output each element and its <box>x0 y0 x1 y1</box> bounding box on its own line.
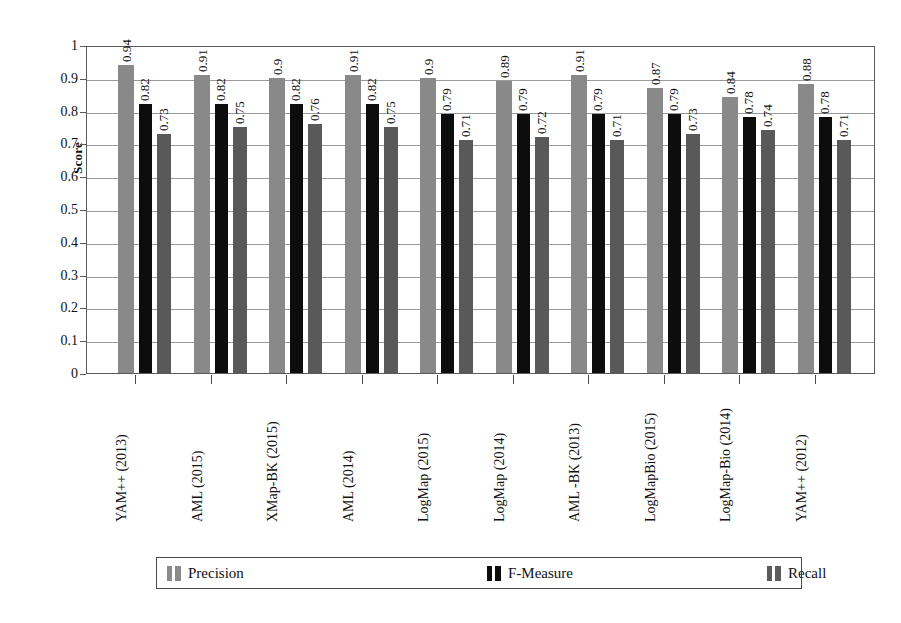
bar-recall <box>535 137 549 373</box>
x-axis-category-label: AML (2015) <box>191 451 205 522</box>
x-axis-category-label: XMap-BK (2015) <box>266 421 280 522</box>
bar-fmeasure <box>517 114 530 373</box>
x-axis-category-label: AML (2014) <box>342 451 356 522</box>
bar-value-label: 0.87 <box>649 62 662 85</box>
bar-group: 0.90.820.76 <box>269 47 345 373</box>
bar-recall <box>157 134 171 373</box>
bar-value-label: 0.91 <box>573 49 586 72</box>
bar-fmeasure <box>668 114 681 373</box>
bar-group: 0.870.790.73 <box>647 47 723 373</box>
bar-value-label: 0.89 <box>498 55 511 78</box>
bar-fmeasure <box>743 117 756 373</box>
legend-swatch-icon <box>767 566 772 581</box>
bar-recall <box>761 130 775 373</box>
bar-value-label: 0.73 <box>157 108 170 131</box>
x-axis-category-label: LogMap (2015) <box>417 433 431 522</box>
y-axis-tick-labels: 10.90.80.70.60.50.40.30.20.10 <box>30 46 80 374</box>
bar-value-label: 0.82 <box>138 78 151 101</box>
legend-swatch-icon <box>487 566 492 581</box>
bar-value-label: 0.79 <box>667 88 680 111</box>
bar-precision <box>269 78 285 373</box>
bar-value-label: 0.75 <box>233 101 246 124</box>
x-axis-category-labels: YAM++ (2013)AML (2015)XMap-BK (2015)AML … <box>86 382 875 522</box>
bar-value-label: 0.71 <box>459 114 472 137</box>
bar-group: 0.90.790.71 <box>420 47 496 373</box>
bar-value-label: 0.71 <box>837 114 850 137</box>
bar-fmeasure <box>366 104 379 373</box>
bar-value-label: 0.9 <box>422 59 435 75</box>
y-axis-tick-label: 1 <box>30 39 78 53</box>
legend-label: Recall <box>787 565 826 582</box>
legend-item-recall: Recall <box>767 558 826 588</box>
bar-value-label: 0.91 <box>347 49 360 72</box>
bar-group: 0.910.790.71 <box>571 47 647 373</box>
legend-label: Precision <box>187 565 244 582</box>
legend-swatch-icon <box>175 566 181 581</box>
bar-group: 0.910.820.75 <box>345 47 421 373</box>
bar-group: 0.940.820.73 <box>118 47 194 373</box>
y-axis-tick-label: 0.9 <box>30 72 78 86</box>
bar-value-label: 0.73 <box>686 108 699 131</box>
bar-fmeasure <box>592 114 605 373</box>
bar-value-label: 0.76 <box>308 98 321 121</box>
bar-recall <box>837 140 851 373</box>
legend-item-precision: Precision <box>167 558 244 588</box>
x-axis-category-label: AML -BK (2013) <box>568 423 582 522</box>
bar-value-label: 0.78 <box>818 91 831 114</box>
bar-value-label: 0.79 <box>591 88 604 111</box>
legend-swatch-icon <box>495 566 501 581</box>
bar-group: 0.910.820.75 <box>194 47 270 373</box>
bar-chart-figure: Score 10.90.80.70.60.50.40.30.20.10 0.94… <box>0 0 901 623</box>
bar-value-label: 0.94 <box>120 39 133 62</box>
bar-group: 0.890.790.72 <box>496 47 572 373</box>
bar-value-label: 0.72 <box>535 111 548 134</box>
bar-precision <box>647 88 663 373</box>
y-axis-tick-label: 0.6 <box>30 170 78 184</box>
bar-value-label: 0.9 <box>271 59 284 75</box>
bar-fmeasure <box>290 104 303 373</box>
y-axis-tick-label: 0.3 <box>30 269 78 283</box>
bar-value-label: 0.74 <box>761 105 774 128</box>
bar-fmeasure <box>139 104 152 373</box>
bar-value-label: 0.79 <box>516 88 529 111</box>
bar-precision <box>194 75 210 373</box>
bar-value-label: 0.82 <box>289 78 302 101</box>
bar-group: 0.840.780.74 <box>722 47 798 373</box>
bar-value-label: 0.75 <box>384 101 397 124</box>
x-axis-category-label: LogMapBio (2015) <box>644 413 658 522</box>
bar-fmeasure <box>441 114 454 373</box>
bar-precision <box>420 78 436 373</box>
bar-precision <box>798 84 814 373</box>
bar-value-label: 0.82 <box>365 78 378 101</box>
bar-recall <box>308 124 322 373</box>
bar-recall <box>233 127 247 373</box>
bar-value-label: 0.79 <box>440 88 453 111</box>
chart-legend: PrecisionF-MeasureRecall <box>156 557 802 589</box>
y-axis-tick-label: 0 <box>30 367 78 381</box>
y-axis-tick-label: 0.1 <box>30 334 78 348</box>
bar-recall <box>610 140 624 373</box>
bar-recall <box>686 134 700 373</box>
bar-fmeasure <box>819 117 832 373</box>
bar-value-label: 0.84 <box>724 72 737 95</box>
y-axis-tick-label: 0.5 <box>30 203 78 217</box>
bar-precision <box>571 75 587 373</box>
bar-value-label: 0.82 <box>214 78 227 101</box>
bar-value-label: 0.88 <box>800 59 813 82</box>
bar-fmeasure <box>215 104 228 373</box>
y-axis-tick-label: 0.2 <box>30 301 78 315</box>
bar-precision <box>722 97 738 373</box>
plot-area: 0.940.820.730.910.820.750.90.820.760.910… <box>86 46 875 374</box>
bar-recall <box>384 127 398 373</box>
bar-recall <box>459 140 473 373</box>
x-axis-category-label: YAM++ (2013) <box>115 434 129 522</box>
bar-precision <box>345 75 361 373</box>
x-axis-category-label: LogMap (2014) <box>493 433 507 522</box>
bar-value-label: 0.71 <box>610 114 623 137</box>
y-axis-tick-label: 0.8 <box>30 105 78 119</box>
legend-swatch-icon <box>775 566 781 581</box>
x-axis-category-label: YAM++ (2012) <box>795 434 809 522</box>
bar-precision <box>118 65 134 373</box>
bar-precision <box>496 81 512 373</box>
y-axis-tick-label: 0.4 <box>30 236 78 250</box>
